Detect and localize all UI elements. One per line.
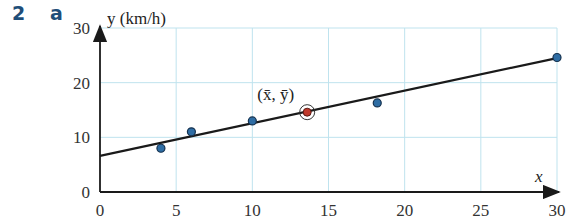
grid <box>100 28 557 192</box>
mean-point: (x̄, ȳ) <box>257 85 314 120</box>
scatter-chart: 0510152025300102030 (x̄, ȳ) y (km/h) x <box>0 0 567 224</box>
data-point <box>187 128 195 136</box>
data-point <box>157 144 165 152</box>
x-tick-label: 25 <box>472 201 489 220</box>
mean-point-label: (x̄, ȳ) <box>257 85 294 104</box>
data-point <box>373 99 381 107</box>
x-tick-label: 20 <box>396 201 413 220</box>
x-tick-label: 10 <box>244 201 261 220</box>
x-axis-label: x <box>534 167 543 186</box>
y-tick-label: 10 <box>73 128 90 147</box>
y-axis-label: y (km/h) <box>107 9 166 28</box>
data-point <box>248 117 256 125</box>
y-tick-label: 30 <box>73 19 90 38</box>
data-point <box>553 54 561 62</box>
y-tick-label: 20 <box>73 74 90 93</box>
tick-labels: 0510152025300102030 <box>73 19 566 220</box>
x-tick-label: 15 <box>320 201 337 220</box>
y-tick-label: 0 <box>82 183 91 202</box>
x-tick-label: 30 <box>549 201 566 220</box>
axes <box>100 26 559 192</box>
x-tick-label: 5 <box>172 201 181 220</box>
x-tick-label: 0 <box>96 201 105 220</box>
